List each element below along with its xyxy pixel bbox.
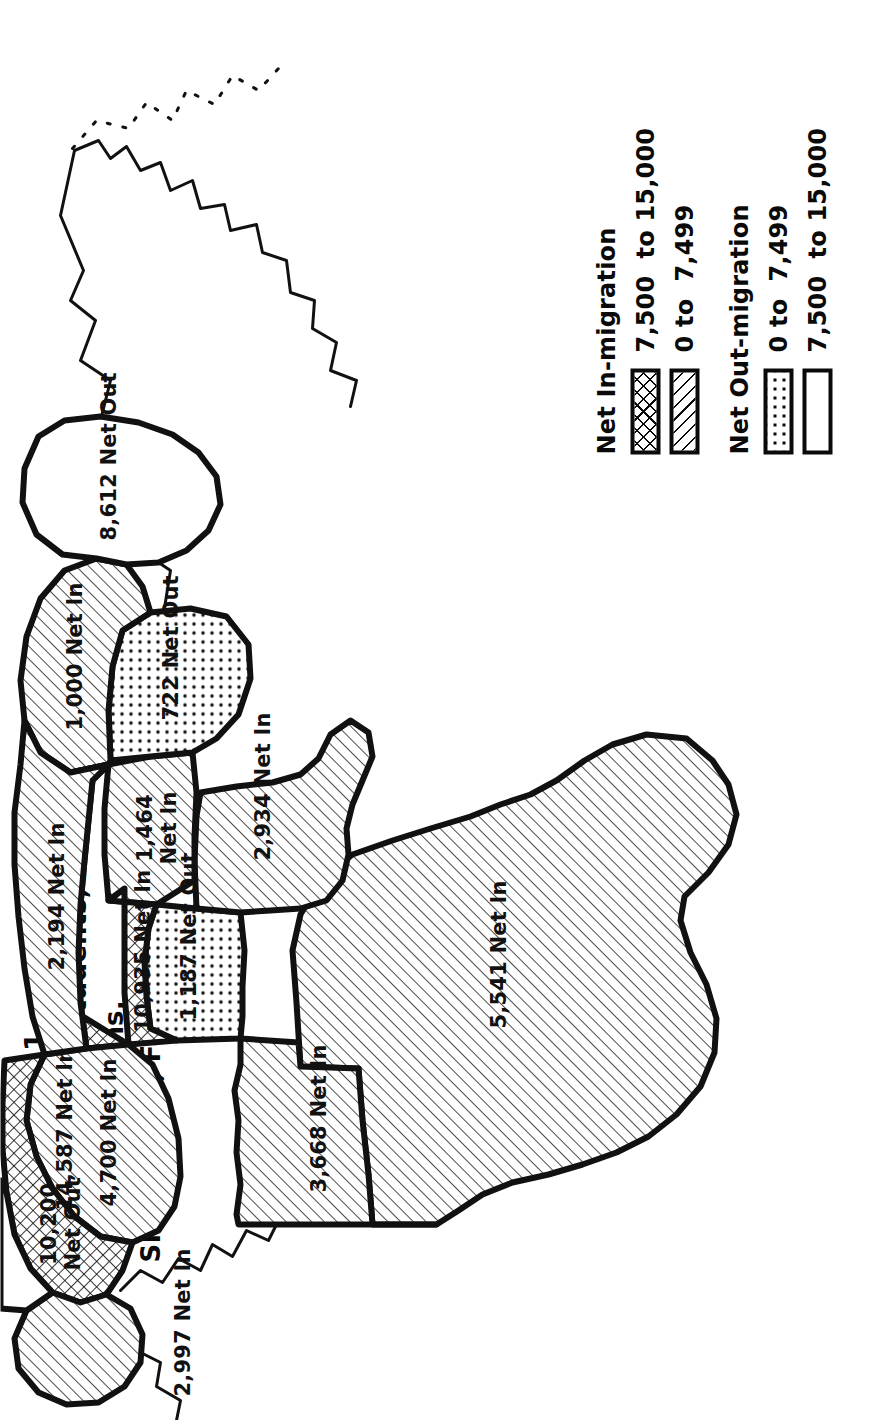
map-legend: Net In-migration 7,500 to 15,000 0 to 7,…: [592, 24, 858, 454]
map-label-tennessee: 10,935 Net In: [130, 869, 154, 1032]
map-label-mississippi: 2,934 Net In: [250, 712, 274, 860]
map-label-oklahoma: 3,668 Net In: [306, 1044, 330, 1192]
map-label-florida: 8,612 Net Out: [96, 372, 120, 540]
dotted-swatch-icon: [763, 368, 793, 454]
legend-row-net-in-high[interactable]: 7,500 to 15,000: [630, 24, 660, 454]
map-label-arkansas: 1,187 Net Out: [176, 852, 200, 1020]
legend-title-net-out: Net Out-migration: [725, 24, 753, 454]
legend-group-net-in: Net In-migration 7,500 to 15,000 0 to 7,…: [592, 24, 699, 454]
rotated-page: Figure 1. Migration of College Students,…: [0, 0, 883, 1420]
map-label-virginia: 14,587 Net In: [52, 1047, 76, 1210]
map-label-north-carolina: 2,194 Net In: [44, 822, 68, 970]
legend-label-net-in-high: 7,500 to 15,000: [631, 127, 659, 352]
map-label-west-virginia: 2,997 Net In: [170, 1248, 194, 1396]
legend-title-net-in: Net In-migration: [592, 24, 620, 454]
map-label-texas: 5,541 Net In: [486, 880, 510, 1028]
diagonal-hatch-swatch-icon: [669, 368, 699, 454]
map-label-alabama: 1,464 Net In: [132, 791, 181, 864]
cross-hatch-swatch-icon: [630, 368, 660, 454]
legend-label-net-in-low: 0 to 7,499: [670, 204, 698, 352]
map-label-kentucky: 4,700 Net In: [96, 1058, 120, 1206]
legend-group-net-out: Net Out-migration 0 to 7,499 7,500 to 15…: [725, 24, 832, 454]
legend-label-net-out-high: 7,500 to 15,000: [803, 127, 831, 352]
legend-row-net-in-low[interactable]: 0 to 7,499: [669, 24, 699, 454]
figure-canvas: Figure 1. Migration of College Students,…: [0, 0, 883, 1420]
map-label-south-carolina: 1,000 Net In: [62, 582, 86, 730]
legend-label-net-out-low: 0 to 7,499: [764, 204, 792, 352]
blank-swatch-icon: [802, 368, 832, 454]
map-label-georgia: 722 Net Out: [158, 575, 182, 720]
legend-row-net-out-high[interactable]: 7,500 to 15,000: [802, 24, 832, 454]
legend-row-net-out-low[interactable]: 0 to 7,499: [763, 24, 793, 454]
